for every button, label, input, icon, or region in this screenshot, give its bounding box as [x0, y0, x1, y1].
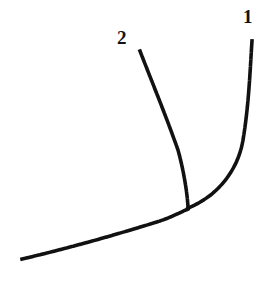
curve-1-label: 1 — [243, 7, 253, 26]
curve-2-label: 2 — [117, 28, 127, 47]
curve-1-path — [188, 41, 252, 208]
figure-canvas: 1 2 — [0, 0, 278, 289]
curve-baseline-path — [22, 209, 188, 259]
curves-svg — [0, 0, 278, 289]
curve-2-path — [140, 51, 188, 207]
